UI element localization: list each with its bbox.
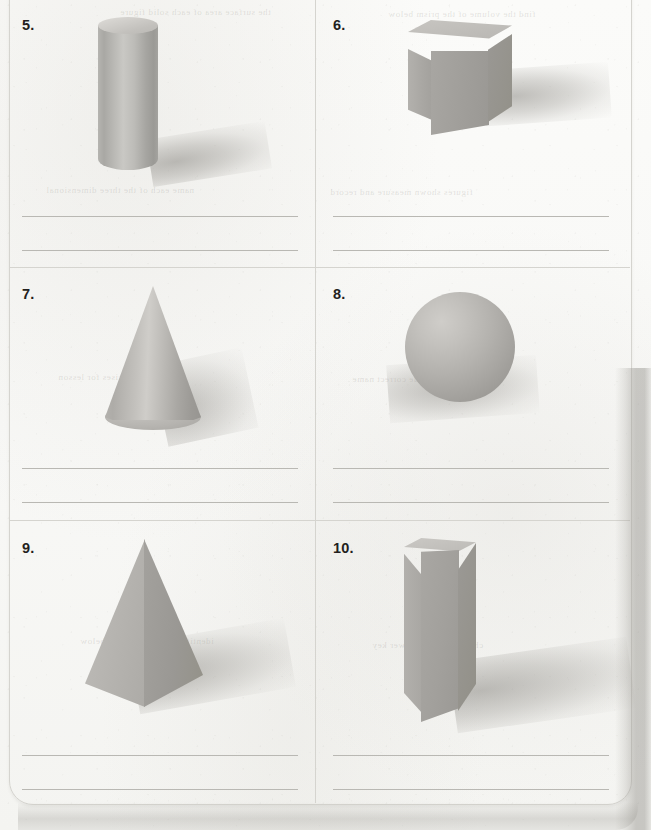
- cube-icon: [408, 20, 512, 124]
- rectangular-prism-icon: [404, 538, 476, 722]
- answer-line-5b[interactable]: [22, 250, 298, 251]
- exercise-cell-9[interactable]: 9.: [9, 521, 315, 803]
- exercise-number-6: 6.: [333, 17, 346, 33]
- worksheet-page: the surface area of each solid figure fi…: [0, 0, 651, 830]
- exercise-number-5: 5.: [22, 17, 35, 33]
- answer-line-10b[interactable]: [333, 789, 609, 790]
- answer-line-7b[interactable]: [22, 502, 298, 503]
- answer-line-8b[interactable]: [333, 502, 609, 503]
- answer-line-6a[interactable]: [333, 216, 609, 217]
- answer-line-7a[interactable]: [22, 468, 298, 469]
- answer-line-9a[interactable]: [22, 755, 298, 756]
- answer-line-9b[interactable]: [22, 789, 298, 790]
- cylinder-shadow: [146, 121, 272, 187]
- answer-line-5a[interactable]: [22, 216, 298, 217]
- exercise-cell-10[interactable]: 10.: [316, 521, 630, 803]
- exercise-cell-7[interactable]: 7.: [9, 268, 315, 520]
- prism-shadow: [448, 637, 636, 733]
- exercise-cell-8[interactable]: 8.: [316, 268, 630, 520]
- exercise-number-9: 9.: [22, 540, 35, 556]
- pyramid-icon: [85, 539, 203, 707]
- exercise-cell-6[interactable]: 6.: [316, 0, 630, 267]
- cone-icon: [105, 286, 201, 434]
- exercise-number-7: 7.: [22, 286, 35, 302]
- answer-line-8a[interactable]: [333, 468, 609, 469]
- answer-line-10a[interactable]: [333, 755, 609, 756]
- exercise-number-8: 8.: [333, 286, 346, 302]
- answer-line-6b[interactable]: [333, 250, 609, 251]
- page-edge-shadow-bottom: [18, 802, 638, 830]
- sphere-icon: [405, 292, 515, 402]
- exercise-cell-5[interactable]: 5.: [9, 0, 315, 267]
- exercise-number-10: 10.: [333, 540, 354, 556]
- cylinder-icon: [98, 17, 158, 179]
